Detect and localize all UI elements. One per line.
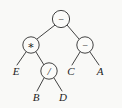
tree-edges	[17, 25, 99, 91]
leaf-label-a: A	[96, 65, 104, 77]
leaf-label-d: D	[58, 91, 67, 103]
leaf-label-b: B	[33, 91, 40, 103]
minus-icon-root: −	[58, 14, 65, 25]
edge-mul-to-e	[17, 52, 26, 65]
leaf-label-c: C	[67, 65, 75, 77]
minus-icon-subtract-right: −	[82, 40, 89, 51]
node-multiply: ∗	[23, 37, 39, 53]
edge-sub2-to-c	[72, 52, 80, 65]
leaf-label-e: E	[12, 65, 20, 77]
edge-root-to-sub2	[67, 25, 79, 39]
expression-tree-figure: − ∗ − / E B D C A	[0, 0, 122, 108]
node-divide: /	[41, 63, 57, 79]
asterisk-icon-multiply: ∗	[27, 39, 34, 51]
expression-tree-canvas: − ∗ − / E B D C A	[0, 0, 122, 108]
edge-root-to-mul	[37, 25, 55, 39]
edge-mul-to-div	[36, 52, 44, 65]
tree-operator-nodes: − ∗ − /	[23, 10, 93, 79]
node-root-minus: −	[52, 10, 69, 27]
edge-div-to-d	[54, 78, 62, 91]
edge-div-to-b	[37, 78, 44, 91]
edge-sub2-to-a	[90, 52, 99, 65]
node-subtract-right: −	[77, 37, 93, 53]
